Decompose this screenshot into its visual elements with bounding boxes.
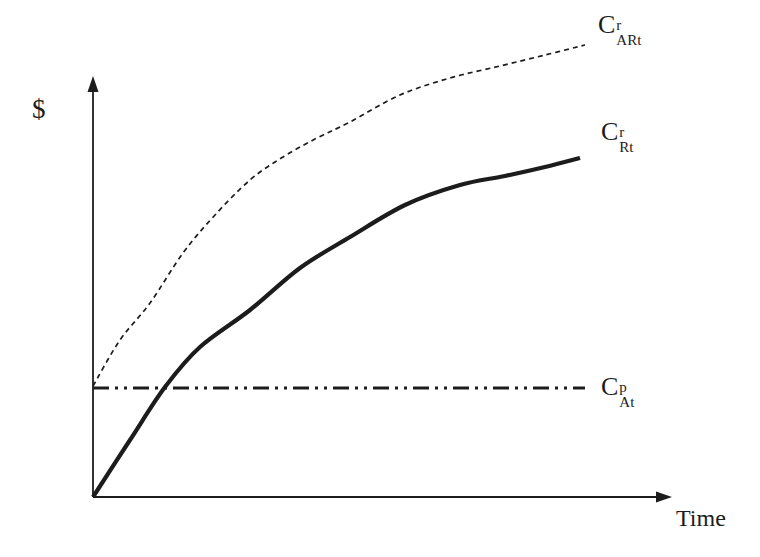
- curve-label-c-rt-sub: Rt: [619, 140, 633, 155]
- curve-label-c-at: CpAt: [601, 374, 634, 413]
- curve-c-art: [93, 45, 585, 386]
- cost-vs-time-figure: $ Time CrARt CrRt CpAt: [0, 0, 760, 557]
- curve-label-c-art-sub: ARt: [616, 33, 641, 48]
- curve-label-c-at-sup: p: [619, 380, 627, 395]
- curve-c-rt: [93, 158, 580, 497]
- y-axis-arrow-icon: [88, 76, 99, 92]
- chart-canvas: [0, 0, 760, 557]
- curve-label-c-at-sub: At: [619, 395, 634, 410]
- curve-label-c-rt: CrRt: [601, 119, 634, 158]
- curve-label-c-art-sup: r: [616, 18, 621, 33]
- x-axis-label: Time: [676, 506, 726, 530]
- curve-label-c-rt-base: C: [601, 119, 618, 145]
- curve-label-c-at-base: C: [601, 374, 618, 400]
- curve-label-c-rt-sup: r: [619, 125, 624, 140]
- curve-label-c-art-base: C: [598, 12, 615, 38]
- curve-label-c-art: CrARt: [598, 12, 641, 51]
- y-axis-label: $: [32, 96, 46, 123]
- x-axis-arrow-icon: [656, 492, 672, 503]
